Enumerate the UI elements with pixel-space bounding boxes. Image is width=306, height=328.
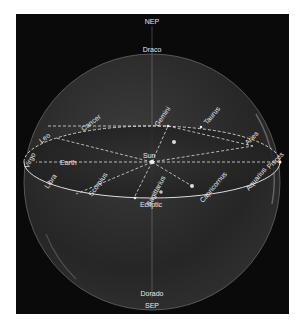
earth-label: Earth (60, 159, 77, 166)
sep-label: SEP (145, 302, 159, 309)
nep-label: NEP (145, 18, 159, 25)
dorado-label: Dorado (141, 290, 164, 297)
sun-label: Sun (143, 152, 155, 159)
sun-marker (150, 160, 154, 164)
draco-label: Draco (143, 46, 162, 53)
celestial-sphere-diagram: NEP Draco Dorado SEP Ecliptic Sun Earth … (16, 14, 289, 314)
sphere-graphic (16, 14, 289, 314)
